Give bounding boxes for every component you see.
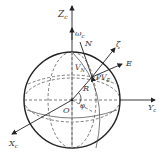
z-axis-label: Zc xyxy=(57,9,68,20)
east-label: E xyxy=(125,59,132,68)
latitude-label: φ xyxy=(80,102,85,110)
radius-label: R xyxy=(82,84,89,93)
pve-label: PVE xyxy=(95,73,110,83)
omega-label: ωc xyxy=(75,29,85,39)
north-label: N xyxy=(84,39,93,48)
earth-frame-diagram: Zc ωc N ζ E VN PVE R O φ Yc Xc xyxy=(0,0,165,158)
zeta-label: ζ xyxy=(116,40,121,49)
x-axis-label: Xc xyxy=(8,139,18,149)
y-axis-label: Yc xyxy=(148,103,156,113)
vn-label: VN xyxy=(75,63,85,73)
origin-point xyxy=(71,99,74,102)
origin-label: O xyxy=(63,106,70,115)
